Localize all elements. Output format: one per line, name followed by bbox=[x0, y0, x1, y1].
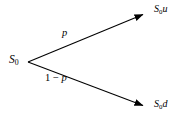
edge-label-down-probability: 1 − p bbox=[45, 73, 67, 84]
up-branch-arrow bbox=[28, 15, 143, 63]
node-up-suffix: u bbox=[162, 3, 167, 14]
edge-label-up-probability: p bbox=[62, 28, 67, 39]
binomial-tree-diagram: S0 S0u S0d p 1 − p bbox=[0, 0, 180, 120]
edge-down-prefix: 1 − bbox=[45, 72, 61, 83]
node-label-down: S0d bbox=[154, 99, 167, 111]
node-label-root: S0 bbox=[9, 54, 19, 67]
node-label-up: S0u bbox=[154, 4, 167, 16]
down-branch-arrow bbox=[28, 62, 143, 106]
node-root-subscript: 0 bbox=[15, 58, 19, 67]
tree-edges-svg bbox=[0, 0, 180, 120]
node-down-suffix: d bbox=[162, 98, 167, 109]
edge-down-variable: p bbox=[61, 72, 66, 83]
edge-up-variable: p bbox=[62, 27, 67, 38]
